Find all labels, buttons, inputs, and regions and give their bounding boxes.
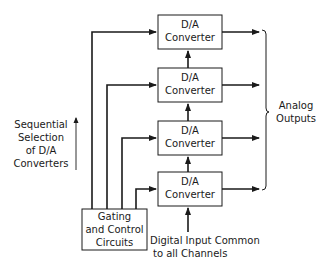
- digital-input-label: Digital Input Common to all Channels: [150, 234, 280, 260]
- converter-label-4: D/A Converter: [158, 175, 222, 201]
- control-line-1: [92, 32, 156, 209]
- control-line-2: [107, 85, 156, 209]
- sequential-selection-label: Sequential Selection of D/A Converters: [10, 118, 72, 170]
- converter-label-2: D/A Converter: [158, 71, 222, 97]
- control-line-4: [136, 189, 156, 209]
- gating-label: Gating and Control Circuits: [82, 210, 147, 249]
- analog-outputs-label: Analog Outputs: [271, 99, 321, 125]
- control-line-3: [122, 138, 156, 209]
- output-brace: [262, 30, 269, 190]
- converter-label-1: D/A Converter: [158, 18, 222, 44]
- converter-label-3: D/A Converter: [158, 124, 222, 150]
